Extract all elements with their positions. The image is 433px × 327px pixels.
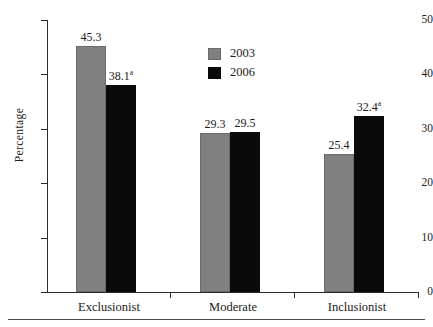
gray-swatch-icon (208, 48, 221, 60)
legend-item-2006[interactable]: 2006 (208, 64, 255, 81)
y-axis-title: Percentage (13, 90, 25, 180)
bar-2006-moderate[interactable] (230, 132, 260, 292)
value-label-2006-exclusionist: 38.1a (91, 70, 151, 82)
x-tick-divider-3 (418, 292, 419, 298)
x-tick-label-moderate: Moderate (172, 300, 294, 314)
value-label-2006-inclusionist: 32.4a (339, 101, 399, 113)
value-text: 38.1 (109, 69, 130, 83)
bar-2006-exclusionist[interactable] (106, 85, 136, 292)
x-tick-divider-2 (294, 292, 295, 298)
value-text: 32.4 (357, 100, 378, 114)
bottom-divider (8, 319, 425, 320)
bar-chart-figure: 50 40 30 20 10 0 Percentage 45.3 38.1a 2… (0, 0, 433, 327)
x-tick-label-exclusionist: Exclusionist (48, 300, 170, 314)
legend-label-2003: 2003 (230, 47, 255, 60)
black-swatch-icon (208, 67, 221, 79)
x-tick-label-inclusionist: Inclusionist (296, 300, 418, 314)
legend-label-2006: 2006 (230, 66, 255, 79)
bar-2003-exclusionist[interactable] (76, 46, 106, 292)
bar-2003-inclusionist[interactable] (324, 154, 354, 292)
x-tick-divider-1 (170, 292, 171, 298)
footnote-marker: a (378, 99, 381, 108)
bar-2003-moderate[interactable] (200, 133, 230, 292)
x-axis-line (47, 292, 419, 293)
value-label-2003-exclusionist: 45.3 (61, 31, 121, 43)
value-label-2006-moderate: 29.5 (215, 117, 275, 129)
footnote-marker: a (130, 68, 133, 77)
value-label-2003-inclusionist: 25.4 (309, 139, 369, 151)
legend: 2003 2006 (208, 45, 255, 83)
legend-item-2003[interactable]: 2003 (208, 45, 255, 62)
